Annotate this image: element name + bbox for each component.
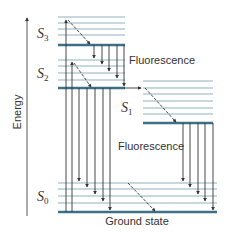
s2-levels — [58, 60, 125, 88]
state-label-s0: S0 — [37, 189, 49, 206]
fluorescence-label-upper: Fluorescence — [129, 54, 195, 66]
s1-fluorescence-arrows — [183, 123, 213, 210]
energy-axis-label: Energy — [11, 94, 23, 129]
state-label-s2: S2 — [37, 66, 49, 83]
state-label-s3: S3 — [37, 26, 49, 43]
ground-state-label: Ground state — [105, 215, 169, 227]
state-label-s1: S1 — [121, 100, 133, 117]
fluorescence-label-lower: Fluorescence — [118, 140, 184, 152]
energy-axis: Energy — [11, 18, 27, 216]
s3-levels — [58, 17, 125, 45]
jablonski-diagram: Energy — [0, 0, 228, 236]
s2-fluorescence-arrows — [79, 88, 110, 210]
s1-levels — [143, 81, 213, 123]
s0-levels — [58, 183, 217, 212]
vibrational-relaxation-arrows — [68, 20, 176, 211]
